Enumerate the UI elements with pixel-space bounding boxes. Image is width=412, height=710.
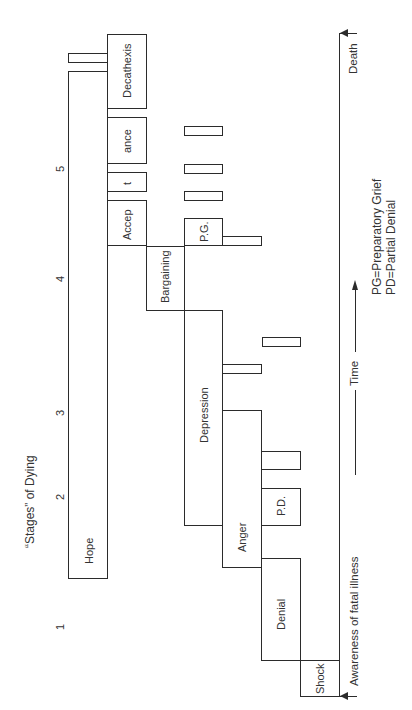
legend-pd: PD=Partial Denial bbox=[385, 200, 397, 295]
time-arrow-line-upper bbox=[355, 290, 356, 352]
time-label: Time bbox=[349, 361, 361, 386]
shock-label: Shock bbox=[315, 663, 326, 694]
awareness-label: Awareness of fatal illness bbox=[349, 556, 361, 686]
denial-label: Denial bbox=[276, 599, 287, 630]
depression-left-extension bbox=[184, 246, 185, 310]
partial-denial-label: P.D. bbox=[276, 496, 287, 516]
stage-number-4: 4 bbox=[55, 276, 66, 282]
hope-label: Hope bbox=[84, 538, 95, 564]
hope-top-bar-box bbox=[68, 53, 108, 63]
hope-box bbox=[68, 71, 108, 579]
time-arrow-icon bbox=[352, 280, 358, 290]
depression-bar-2-box bbox=[262, 337, 301, 347]
preparatory-grief-label: P.G. bbox=[199, 221, 210, 242]
timeline-line bbox=[339, 33, 340, 697]
death-label: Death bbox=[348, 43, 360, 74]
bargaining-label: Bargaining bbox=[160, 250, 171, 303]
stage-number-1: 1 bbox=[55, 624, 66, 630]
diagram-title: “Stages” of Dying bbox=[24, 455, 36, 548]
time-arrow-line-lower bbox=[355, 390, 356, 475]
anger-label: Anger bbox=[237, 523, 248, 552]
pg-bar-2-box bbox=[184, 164, 223, 174]
legend-pg: PG=Preparatory Grief bbox=[371, 179, 383, 295]
stage-number-3: 3 bbox=[55, 410, 66, 416]
acceptance-accep-label: Accep bbox=[122, 209, 133, 240]
pg-bar-1-box bbox=[184, 126, 223, 136]
depression-label: Depression bbox=[199, 387, 210, 443]
anger-bar-box bbox=[261, 451, 301, 470]
death-arrow-icon bbox=[340, 29, 348, 37]
stage-number-5: 5 bbox=[55, 166, 66, 172]
depression-bar-1-box bbox=[222, 364, 262, 374]
stages-of-dying-diagram: “Stages” of Dying 12345 HopeDecathexisan… bbox=[0, 0, 412, 710]
awareness-arrow-icon bbox=[340, 692, 348, 700]
pg-bar-3-box bbox=[184, 191, 223, 201]
acceptance-ance-label: ance bbox=[122, 129, 133, 153]
stage-number-2: 2 bbox=[55, 494, 66, 500]
decathexis-label: Decathexis bbox=[122, 44, 133, 98]
acceptance-t-label: t bbox=[122, 182, 133, 185]
pg-side-bar-box bbox=[222, 236, 262, 246]
